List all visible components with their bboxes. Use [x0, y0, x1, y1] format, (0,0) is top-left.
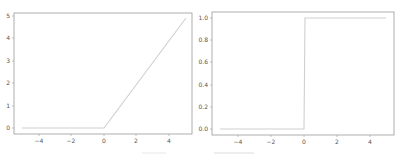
right-xtick-label: −4 — [234, 138, 243, 145]
right-y-axis: 1.0 0.8 0.6 0.4 0.2 0.0 — [198, 14, 212, 132]
left-plot: 5 4 3 2 1 0 −4 −2 0 2 4 — [6, 12, 192, 144]
left-y-axis: 5 4 3 2 1 0 — [6, 12, 14, 131]
right-ytick-label: 0.6 — [198, 58, 208, 65]
left-ytick-label: 1 — [6, 102, 10, 109]
left-xtick-label: −2 — [67, 137, 76, 144]
right-ytick-label: 0.0 — [198, 125, 208, 132]
left-ytick-label: 2 — [6, 79, 10, 86]
right-xtick-label: 2 — [335, 138, 339, 145]
left-axes-frame — [14, 13, 192, 134]
left-xtick-label: 2 — [134, 137, 138, 144]
left-xtick-label: −4 — [35, 137, 44, 144]
right-ytick-label: 0.8 — [198, 36, 208, 43]
right-axes-frame — [212, 12, 394, 135]
left-ytick-label: 4 — [6, 34, 10, 41]
right-x-axis: −4 −2 0 2 4 — [234, 135, 373, 145]
right-xtick-label: 4 — [368, 138, 372, 145]
figure: 5 4 3 2 1 0 −4 −2 0 2 4 — [0, 0, 403, 159]
left-ytick-label: 0 — [6, 124, 10, 131]
right-ytick-label: 1.0 — [198, 14, 208, 21]
right-xtick-label: −2 — [267, 138, 276, 145]
right-xtick-label: 0 — [302, 138, 306, 145]
right-ytick-label: 0.2 — [198, 103, 208, 110]
left-x-axis: −4 −2 0 2 4 — [35, 134, 172, 144]
left-ytick-label: 3 — [6, 57, 10, 64]
right-plot: 1.0 0.8 0.6 0.4 0.2 0.0 −4 −2 0 2 4 — [198, 12, 394, 145]
left-xtick-label: 0 — [102, 137, 106, 144]
faint-caption — [142, 152, 254, 154]
right-ytick-label: 0.4 — [198, 81, 208, 88]
left-xtick-label: 4 — [167, 137, 171, 144]
left-ytick-label: 5 — [6, 12, 10, 19]
